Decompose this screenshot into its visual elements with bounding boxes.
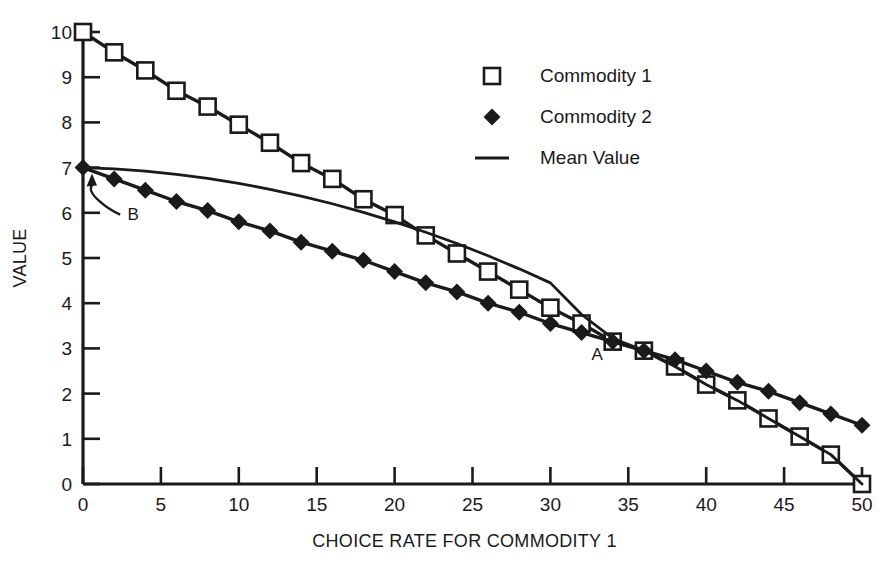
data-point-marker-square — [75, 24, 91, 40]
x-tick-label: 35 — [618, 494, 639, 515]
data-point-marker-square — [480, 264, 496, 280]
x-tick-label: 10 — [228, 494, 249, 515]
y-tick-label: 3 — [61, 338, 72, 359]
y-tick-label: 10 — [51, 22, 72, 43]
data-point-marker-square — [262, 135, 278, 151]
y-tick-label: 7 — [61, 158, 72, 179]
data-point-marker-square — [106, 44, 122, 60]
data-point-marker-square — [324, 171, 340, 187]
y-tick-label: 8 — [61, 112, 72, 133]
data-point-marker-square — [168, 83, 184, 99]
x-tick-label: 15 — [306, 494, 327, 515]
data-point-marker-square — [542, 300, 558, 316]
legend-label: Commodity 1 — [540, 65, 652, 86]
line-chart: 05101520253035404550 012345678910 AB Com… — [0, 0, 880, 563]
x-tick-label: 5 — [156, 494, 167, 515]
x-tick-label: 50 — [851, 494, 872, 515]
data-point-marker-square — [484, 68, 500, 84]
data-point-marker-square — [231, 117, 247, 133]
chart-background — [0, 0, 880, 563]
data-point-marker-square — [355, 191, 371, 207]
data-point-marker-square — [511, 282, 527, 298]
chart-figure: 05101520253035404550 012345678910 AB Com… — [0, 0, 880, 563]
data-point-marker-square — [449, 245, 465, 261]
y-tick-label: 9 — [61, 67, 72, 88]
x-tick-label: 0 — [78, 494, 89, 515]
data-point-marker-square — [293, 155, 309, 171]
y-tick-label: 0 — [61, 474, 72, 495]
x-tick-label: 25 — [462, 494, 483, 515]
x-tick-label: 20 — [384, 494, 405, 515]
data-point-marker-square — [200, 99, 216, 115]
data-point-marker-square — [137, 62, 153, 78]
y-tick-label: 2 — [61, 384, 72, 405]
y-tick-label: 6 — [61, 203, 72, 224]
y-tick-label: 1 — [61, 429, 72, 450]
y-tick-label: 4 — [61, 293, 72, 314]
y-axis-title: VALUE — [10, 228, 30, 287]
annotation-label-b: B — [127, 205, 138, 224]
x-tick-label: 30 — [540, 494, 561, 515]
x-tick-label: 45 — [774, 494, 795, 515]
annotation-label-a: A — [591, 345, 603, 364]
x-axis-title: CHOICE RATE FOR COMMODITY 1 — [312, 531, 616, 551]
legend-label: Mean Value — [540, 147, 640, 168]
legend-label: Commodity 2 — [540, 106, 652, 127]
x-tick-label: 40 — [696, 494, 717, 515]
y-tick-label: 5 — [61, 248, 72, 269]
